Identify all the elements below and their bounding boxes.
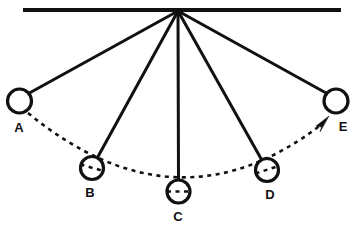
bob-label-e: E	[339, 119, 348, 134]
bob-e	[324, 89, 348, 113]
bob-label-c: C	[173, 209, 183, 224]
direction-arrow-icon	[316, 116, 329, 132]
pendulum-diagram-canvas: A B C D E	[0, 0, 355, 232]
bob-label-d: D	[265, 187, 274, 202]
bob-a	[8, 89, 32, 113]
bob-label-a: A	[14, 120, 24, 135]
bob-label-b: B	[85, 185, 94, 200]
pendulum-diagram: A B C D E	[0, 0, 355, 232]
rod-to-bob-c	[178, 11, 179, 180]
